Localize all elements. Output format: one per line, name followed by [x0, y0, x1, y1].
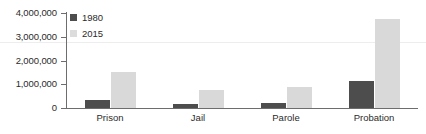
- bar-prison-2015[interactable]: [111, 72, 136, 108]
- legend-item-2015[interactable]: 2015: [70, 27, 103, 40]
- bar-jail-2015[interactable]: [199, 90, 224, 108]
- y-axis-tick-label: 2,000,000: [16, 56, 57, 66]
- legend-swatch-icon-2015: [70, 30, 77, 37]
- bar-chart: 01,000,0002,000,0003,000,0004,000,000 Pr…: [0, 0, 426, 134]
- y-axis-tick-label: 1,000,000: [16, 79, 57, 89]
- bar-probation-2015[interactable]: [375, 19, 400, 108]
- bar-probation-1980[interactable]: [349, 81, 374, 108]
- legend-item-1980[interactable]: 1980: [70, 11, 103, 24]
- y-axis-tick: [61, 108, 66, 109]
- bar-jail-1980[interactable]: [173, 104, 198, 108]
- x-axis-label-prison: Prison: [65, 112, 155, 124]
- legend-label-2015: 2015: [82, 29, 103, 39]
- x-axis-label-jail: Jail: [153, 112, 243, 124]
- y-axis-tick-label: 0: [52, 103, 57, 113]
- bar-prison-1980[interactable]: [85, 100, 110, 108]
- bar-parole-1980[interactable]: [261, 103, 286, 108]
- y-axis-tick-label: 3,000,000: [16, 32, 57, 42]
- legend-label-1980: 1980: [82, 13, 103, 23]
- x-axis-label-parole: Parole: [241, 112, 331, 124]
- x-axis-label-probation: Probation: [329, 112, 419, 124]
- bar-parole-2015[interactable]: [287, 87, 312, 108]
- x-axis-line: [66, 108, 418, 109]
- legend-swatch-icon-1980: [70, 14, 77, 21]
- chart-legend: 1980 2015: [70, 11, 103, 43]
- y-axis-tick-label: 4,000,000: [16, 8, 57, 18]
- plot-area: [66, 13, 418, 108]
